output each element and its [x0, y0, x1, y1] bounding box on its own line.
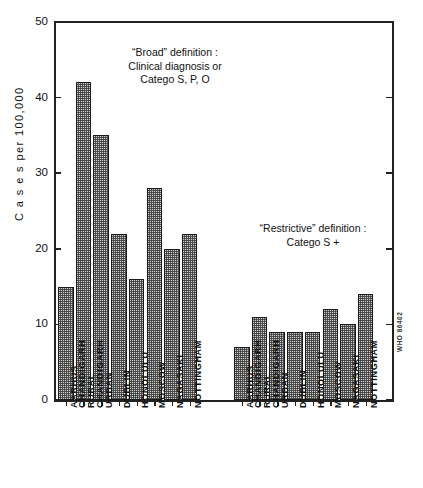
- x-tick: [313, 400, 314, 406]
- x-axis-label-line-2: URBAN: [281, 340, 290, 409]
- x-tick: [330, 400, 331, 406]
- y-axis-title: C a s e s per 100,000: [13, 91, 25, 221]
- x-axis-label-line-1: DUBLIN: [122, 370, 132, 408]
- annotation-restrictive-line-1: “Restrictive” definition :: [238, 222, 388, 236]
- x-axis-label-line-1: MOSCOW: [157, 361, 167, 408]
- y-tick-label-40: 40: [14, 91, 48, 103]
- x-axis-label-line-1: HONOLULU: [316, 351, 326, 408]
- x-tick: [137, 400, 138, 406]
- x-axis-label-line-1: NOTTINGHAM: [193, 340, 203, 408]
- annotation-broad-line-1: “Broad” definition :: [105, 46, 245, 60]
- x-tick: [66, 400, 67, 406]
- x-axis-label: DUBLIN: [299, 370, 308, 408]
- annotation-restrictive-definition: “Restrictive” definition : Catego S +: [238, 222, 388, 249]
- annotation-restrictive-line-2: Catego S +: [238, 236, 388, 250]
- y-tick-label-20: 20: [14, 242, 48, 254]
- bar-chart: C a s e s per 100,000 01020304050 AARHUS…: [0, 0, 423, 488]
- annotation-broad-line-2: Clinical diagnosis or: [105, 60, 245, 74]
- x-axis-label: DUBLIN: [123, 370, 132, 408]
- x-axis-label: CHANDIGARHURBAN: [272, 340, 290, 409]
- x-axis-label: NOTTINGHAM: [194, 340, 203, 408]
- x-axis-label: CHANDIGARHRURAL: [78, 340, 96, 409]
- x-tick: [190, 400, 191, 406]
- x-axis-label: MOSCOW: [158, 361, 167, 408]
- x-tick: [366, 400, 367, 406]
- x-axis-label: CHANDIGARHURBAN: [96, 340, 114, 409]
- source-code-label: WHO 86402: [396, 312, 403, 352]
- y-tick-label-0: 0: [14, 393, 48, 405]
- x-axis-label: HONOLULU: [141, 351, 150, 408]
- x-axis-label-line-1: NAGASAKI: [175, 354, 185, 408]
- x-axis-label-line-2: URBAN: [105, 340, 114, 409]
- x-axis-label: NAGASAKI: [352, 354, 361, 408]
- x-tick: [242, 400, 243, 406]
- x-axis-label-line-1: NOTTINGHAM: [369, 340, 379, 408]
- x-tick: [154, 400, 155, 406]
- x-tick: [348, 400, 349, 406]
- x-axis-label: NOTTINGHAM: [370, 340, 379, 408]
- x-tick: [119, 400, 120, 406]
- x-axis-label-line-1: MOSCOW: [333, 361, 343, 408]
- annotation-broad-line-3: Catego S, P, O: [105, 73, 245, 87]
- x-axis-label: MOSCOW: [334, 361, 343, 408]
- y-tick-label-10: 10: [14, 317, 48, 329]
- x-axis-label: CHANDIGARHRURAL: [254, 340, 272, 409]
- y-tick-label-30: 30: [14, 166, 48, 178]
- x-axis-label-line-1: DUBLIN: [298, 370, 308, 408]
- x-tick: [172, 400, 173, 406]
- x-tick: [295, 400, 296, 406]
- x-axis-label-line-1: HONOLULU: [140, 351, 150, 408]
- y-tick-label-50: 50: [14, 15, 48, 27]
- x-axis-label: HONOLULU: [317, 351, 326, 408]
- x-axis-label-line-1: NAGASAKI: [351, 354, 361, 408]
- annotation-broad-definition: “Broad” definition : Clinical diagnosis …: [105, 46, 245, 87]
- x-axis-label: NAGASAKI: [176, 354, 185, 408]
